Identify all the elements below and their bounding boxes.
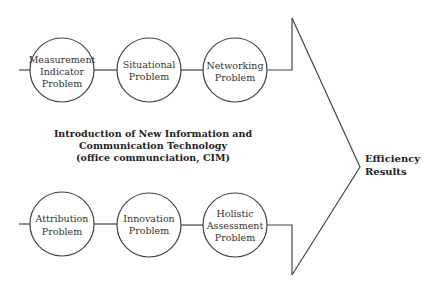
- node-label-line: Problem: [215, 232, 255, 243]
- result-label: Efficiency Results: [365, 153, 421, 177]
- node-networking: Networking Problem: [203, 38, 267, 102]
- node-label-line: Assessment: [206, 220, 264, 231]
- node-label-line: Innovation: [123, 213, 174, 224]
- result-label-line: Results: [365, 166, 407, 177]
- node-label-line: Indicator: [40, 66, 85, 77]
- center-caption-line: Introduction of New Information and: [54, 128, 253, 139]
- node-label-line: Holistic: [216, 208, 253, 219]
- node-situational: Situational Problem: [117, 38, 181, 102]
- bottom-connector-3: [267, 225, 292, 275]
- node-label-line: Problem: [42, 78, 82, 89]
- center-caption-line: Communication Technology: [79, 140, 227, 151]
- center-caption-line: (office communciation, CIM): [76, 152, 230, 164]
- top-connector-3: [267, 18, 292, 70]
- node-label-line: Situational: [123, 59, 176, 70]
- node-innovation: Innovation Problem: [117, 193, 181, 257]
- node-holistic-assessment: Holistic Assessment Problem: [203, 193, 267, 257]
- converging-arrow: [292, 18, 360, 275]
- center-caption: Introduction of New Information and Comm…: [54, 128, 253, 164]
- node-label-line: Networking: [206, 60, 263, 71]
- efficiency-diagram: Measurement Indicator Problem Situationa…: [0, 0, 431, 286]
- node-label-line: Measurement: [29, 54, 96, 65]
- node-measurement-indicator: Measurement Indicator Problem: [29, 38, 96, 102]
- node-label-line: Attribution: [35, 213, 89, 224]
- node-label-line: Problem: [129, 225, 169, 236]
- node-label-line: Problem: [129, 71, 169, 82]
- result-label-line: Efficiency: [365, 153, 421, 164]
- node-label-line: Problem: [42, 226, 82, 237]
- node-label-line: Problem: [215, 72, 255, 83]
- node-attribution: Attribution Problem: [30, 192, 94, 256]
